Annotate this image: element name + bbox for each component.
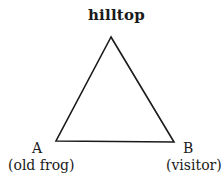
triangle-diagram: hilltop A (old frog) B (visitor): [0, 0, 222, 179]
vertex-b-label: B: [183, 141, 193, 155]
hilltop-label: hilltop: [88, 8, 145, 23]
vertex-a-description: (old frog): [8, 158, 75, 172]
vertex-b-description: (visitor): [166, 158, 222, 172]
vertex-a-label: A: [32, 141, 42, 155]
